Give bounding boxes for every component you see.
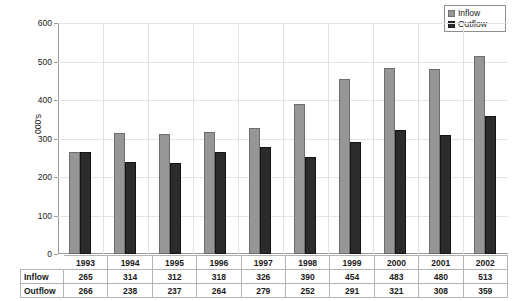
bar-outflow-2000	[395, 130, 406, 254]
bar-inflow-1999	[339, 79, 350, 254]
table-cell-outflow-1998: 252	[285, 284, 329, 298]
legend-item-inflow[interactable]: Inflow	[448, 8, 502, 18]
bar-inflow-1998	[294, 104, 305, 254]
bar-outflow-1993	[80, 152, 91, 254]
bar-outflow-2002	[485, 116, 496, 254]
bar-group-1993	[58, 23, 103, 254]
table-cell-inflow-1995: 312	[152, 270, 196, 284]
bar-outflow-1997	[260, 147, 271, 254]
table-column-header-1996: 1996	[197, 256, 241, 270]
bar-group-1997	[238, 23, 283, 254]
table-header-row: 1993199419951996199719981999200020012002	[21, 256, 508, 270]
chart-title	[0, 0, 513, 1]
table-cell-inflow-2000: 483	[374, 270, 418, 284]
y-tick-label: 600	[38, 19, 52, 28]
bar-group-1999	[328, 23, 373, 254]
table-column-header-2001: 2001	[419, 256, 463, 270]
table-cell-inflow-1998: 390	[285, 270, 329, 284]
bar-inflow-2001	[429, 69, 440, 254]
table-cell-inflow-1994: 314	[108, 270, 152, 284]
table-cell-outflow-2000: 321	[374, 284, 418, 298]
y-tick-label: 500	[38, 58, 52, 67]
table-corner-cell	[21, 256, 64, 270]
bar-group-1998	[283, 23, 328, 254]
legend-swatch-icon	[448, 10, 455, 17]
bar-group-2002	[463, 23, 508, 254]
chart-screenshot: InflowOutflow 000's 6005004003002001000 …	[0, 0, 513, 301]
bar-outflow-1999	[350, 142, 361, 254]
table-row: Outflow266238237264279252291321308359	[21, 284, 508, 298]
table-cell-outflow-1997: 279	[241, 284, 285, 298]
table-cell-outflow-2001: 308	[419, 284, 463, 298]
table-row-header-inflow: Inflow	[21, 270, 64, 284]
y-tick-label: 300	[38, 135, 52, 144]
table-column-header-1999: 1999	[330, 256, 374, 270]
bar-group-1996	[193, 23, 238, 254]
data-table: 1993199419951996199719981999200020012002…	[20, 255, 508, 298]
bar-inflow-1995	[159, 134, 170, 254]
bar-series-container	[58, 23, 508, 254]
bar-outflow-1995	[170, 163, 181, 254]
bar-inflow-1996	[204, 132, 215, 254]
bar-outflow-1998	[305, 157, 316, 254]
bar-group-1994	[103, 23, 148, 254]
table-cell-inflow-2002: 513	[463, 270, 507, 284]
table-column-header-1998: 1998	[285, 256, 329, 270]
table-cell-inflow-1999: 454	[330, 270, 374, 284]
table-column-header-1997: 1997	[241, 256, 285, 270]
table-column-header-2002: 2002	[463, 256, 507, 270]
bar-group-2000	[373, 23, 418, 254]
bar-inflow-1997	[249, 128, 260, 254]
bar-inflow-1994	[114, 133, 125, 254]
bar-outflow-1996	[215, 152, 226, 254]
table-column-header-1995: 1995	[152, 256, 196, 270]
table-cell-outflow-1994: 238	[108, 284, 152, 298]
table-cell-inflow-1993: 265	[64, 270, 108, 284]
table-row-header-outflow: Outflow	[21, 284, 64, 298]
bar-outflow-2001	[440, 135, 451, 254]
table-cell-outflow-1996: 264	[197, 284, 241, 298]
table-cell-outflow-2002: 359	[463, 284, 507, 298]
table-cell-inflow-1996: 318	[197, 270, 241, 284]
table-cell-inflow-1997: 326	[241, 270, 285, 284]
y-tick-label: 100	[38, 212, 52, 221]
bar-inflow-1993	[69, 152, 80, 254]
y-tick-label: 400	[38, 96, 52, 105]
table-cell-inflow-2001: 480	[419, 270, 463, 284]
y-tick-label: 200	[38, 173, 52, 182]
table-row: Inflow265314312318326390454483480513	[21, 270, 508, 284]
table-cell-outflow-1993: 266	[64, 284, 108, 298]
table-cell-outflow-1995: 237	[152, 284, 196, 298]
bar-inflow-2002	[474, 56, 485, 254]
bar-outflow-1994	[125, 162, 136, 254]
table-column-header-2000: 2000	[374, 256, 418, 270]
legend-item-label: Inflow	[458, 8, 480, 18]
plot-area: 6005004003002001000	[58, 23, 508, 254]
table-column-header-1993: 1993	[64, 256, 108, 270]
bar-group-1995	[148, 23, 193, 254]
bar-inflow-2000	[384, 68, 395, 254]
bar-group-2001	[418, 23, 463, 254]
table-cell-outflow-1999: 291	[330, 284, 374, 298]
table-column-header-1994: 1994	[108, 256, 152, 270]
